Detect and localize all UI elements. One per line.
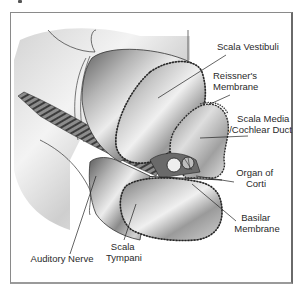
- label-auditory-nerve: Auditory Nerve: [31, 253, 94, 264]
- cochlea-diagram: Scala Vestibuli Reissner's Membrane Scal…: [0, 0, 302, 293]
- leader-auditory-nerve: [70, 176, 96, 254]
- label-reissners-membrane: Reissner's Membrane: [213, 70, 260, 92]
- leader-reissners-membrane: [208, 95, 230, 105]
- label-basilar-membrane: Basilar Membrane: [234, 212, 279, 234]
- illustration: Scala Vestibuli Reissner's Membrane Scal…: [0, 0, 302, 293]
- label-scala-media: Scala Media /Cochlear Duct: [229, 113, 292, 135]
- label-scala-tympani: Scala Tympani: [106, 241, 142, 263]
- label-scala-vestibuli: Scala Vestibuli: [217, 41, 279, 52]
- label-organ-of-corti: Organ of Corti: [236, 167, 276, 189]
